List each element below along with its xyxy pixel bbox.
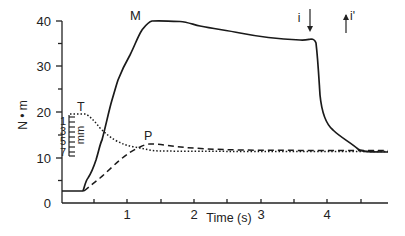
up-arrow-icon (343, 14, 349, 33)
curve-label-m: M (130, 8, 141, 23)
x-tick-label: 4 (323, 207, 330, 222)
y-axis (56, 21, 62, 203)
x-axis (62, 199, 388, 203)
marker-i-prime-label: i' (350, 9, 355, 23)
y-tick-label: 20 (37, 105, 51, 120)
curve-label-p: P (144, 129, 152, 143)
curve-m (62, 21, 388, 191)
down-arrow-icon (307, 9, 313, 32)
x-axis-label: Time (s) (206, 211, 251, 225)
x-tick-label: 3 (257, 207, 264, 222)
curve-label-t: T (77, 100, 85, 114)
y-tick-label: 10 (37, 151, 51, 166)
x-tick-label: 2 (190, 207, 197, 222)
y-tick-label: 0 (44, 196, 51, 211)
y-axis-label: N • m (16, 100, 30, 130)
x-tick-label: 1 (123, 207, 130, 222)
curve-t (70, 114, 388, 152)
scale-unit: mm (74, 126, 86, 144)
curve-p (84, 144, 388, 191)
marker-i-label: i (298, 11, 301, 25)
scale-label: 7 (60, 146, 66, 158)
y-tick-label: 40 (37, 14, 51, 29)
chart: 40 30 20 10 0 N • m 1 2 3 4 Time (s) M T… (0, 0, 405, 236)
y-tick-label: 30 (37, 59, 51, 74)
